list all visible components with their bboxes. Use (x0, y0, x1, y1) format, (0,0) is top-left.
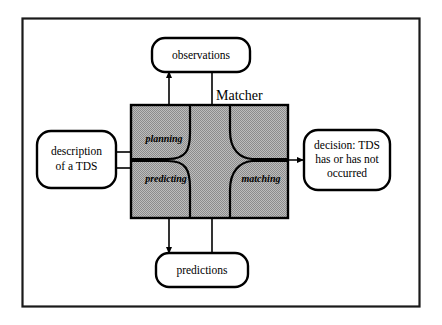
node-observations-label: observations (172, 49, 231, 61)
node-decision[interactable]: decision: TDS has or has not occurred (304, 130, 390, 190)
node-description[interactable]: description of a TDS (37, 131, 116, 188)
node-description-label-line1: description (51, 145, 102, 158)
node-predictions-label: predictions (176, 264, 228, 277)
node-decision-label-line1: decision: TDS (314, 139, 380, 151)
node-observations[interactable]: observations (152, 38, 250, 72)
diagram-page: planning predicting matching Matcher obs… (0, 0, 442, 325)
matcher-block[interactable]: planning predicting matching (131, 105, 288, 218)
node-predictions[interactable]: predictions (156, 253, 248, 287)
node-description-label-line2: of a TDS (56, 160, 98, 172)
node-decision-label-line3: occurred (327, 167, 367, 179)
region-label-predicting: predicting (144, 173, 187, 184)
matcher-title: Matcher (216, 88, 263, 103)
region-label-matching: matching (242, 173, 281, 184)
block-diagram: planning predicting matching Matcher obs… (0, 0, 442, 325)
region-label-planning: planning (144, 133, 182, 144)
node-decision-label-line2: has or has not (315, 153, 379, 165)
